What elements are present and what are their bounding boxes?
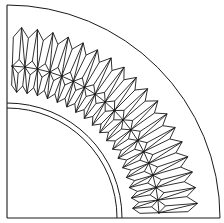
diamond-edge xyxy=(105,92,106,102)
inner-facet-edge xyxy=(123,168,132,170)
radial-boundary-edge xyxy=(23,67,25,86)
inner-facet-edge xyxy=(75,104,76,113)
outer-crystal-edge xyxy=(124,89,148,111)
outer-facet-edge xyxy=(13,28,21,38)
radial-boundary-edge xyxy=(156,182,184,188)
radial-boundary-edge xyxy=(140,213,159,214)
outer-facet-edge xyxy=(68,37,72,49)
outer-crystal-edge xyxy=(95,58,111,94)
radial-boundary-edge xyxy=(138,126,163,141)
mid-boundary-edge xyxy=(25,67,38,69)
outer-crystal-edge xyxy=(105,67,124,102)
inner-facet-edge xyxy=(113,149,122,150)
diamond-edge xyxy=(156,188,164,193)
outer-crystal-edge xyxy=(19,28,21,60)
inner-crystal-edge xyxy=(129,175,153,187)
diamond-edge xyxy=(12,59,19,66)
radial-boundary-edge xyxy=(105,80,124,102)
radial-boundary-edge xyxy=(109,120,124,132)
inner-facet-edge xyxy=(100,132,109,133)
outer-facet-edge xyxy=(181,167,193,172)
diamond-edge xyxy=(94,85,95,94)
inner-facet-edge xyxy=(55,94,57,103)
outer-crystal-edge xyxy=(147,128,175,143)
mid-boundary-edge xyxy=(85,87,96,94)
outer-crystal-edge xyxy=(153,142,182,155)
diamond-edge xyxy=(150,195,158,200)
inner-facet-edge xyxy=(131,198,139,202)
radial-boundary-edge xyxy=(144,139,170,152)
diagram-canvas xyxy=(0,0,224,223)
diamond-edge xyxy=(131,130,140,131)
outer-facet-edge xyxy=(37,29,43,40)
mid-boundary-edge xyxy=(95,94,105,102)
diamond-edge xyxy=(158,200,166,206)
outer-facet-edge xyxy=(83,43,86,55)
inner-crystal-edge xyxy=(67,81,74,107)
diamond-edge xyxy=(122,129,131,130)
outer-crystal-edge xyxy=(22,28,25,68)
diamond-edge xyxy=(32,61,37,69)
outer-crystal-edge xyxy=(133,101,158,121)
inner-crystal-edge xyxy=(126,171,144,177)
diamond-edge xyxy=(95,94,96,103)
inner-facet-edge xyxy=(44,90,47,98)
outer-facet-edge xyxy=(170,139,182,142)
outer-facet-edge xyxy=(187,197,198,204)
inner-facet-edge xyxy=(34,88,38,96)
crystal-ring-diagram xyxy=(0,0,224,223)
crystal-ring xyxy=(11,28,197,214)
outer-facet-edge xyxy=(184,182,195,188)
outer-facet-edge xyxy=(176,153,188,157)
outer-crystal-edge xyxy=(82,50,97,78)
inner-crystal-edge xyxy=(126,163,148,177)
radial-boundary-edge xyxy=(101,111,114,124)
radial-boundary-edge xyxy=(73,55,86,81)
diamond-edge xyxy=(123,120,133,121)
radial-boundary-edge xyxy=(12,66,13,85)
outer-facet-edge xyxy=(111,58,112,71)
radial-boundary-edge xyxy=(93,102,105,117)
inner-facet-edge xyxy=(126,178,134,181)
mid-boundary-edge xyxy=(158,200,159,213)
inner-crystal-edge xyxy=(17,73,18,92)
inner-crystal-edge xyxy=(57,76,62,102)
radial-boundary-edge xyxy=(37,41,43,69)
outer-crystal-edge xyxy=(94,58,111,85)
diamond-edge xyxy=(25,61,32,67)
radial-boundary-edge xyxy=(12,37,13,66)
outer-crystal-edge xyxy=(140,114,167,131)
mid-boundary-edge xyxy=(105,102,114,111)
inner-facet-edge xyxy=(65,98,67,107)
outer-crystal-edge xyxy=(115,77,137,101)
radial-boundary-edge xyxy=(123,101,145,120)
diamond-edge xyxy=(105,111,114,112)
outer-crystal-edge xyxy=(114,77,136,110)
diamond-edge xyxy=(152,207,159,213)
mid-boundary-edge xyxy=(123,120,131,130)
mid-boundary-edge xyxy=(156,188,158,201)
radial-boundary-edge xyxy=(25,38,28,67)
radial-boundary-edge xyxy=(114,90,135,111)
inner-facet-edge xyxy=(129,188,137,192)
radial-boundary-edge xyxy=(131,113,155,130)
inner-facet-edge xyxy=(17,86,23,92)
diamond-edge xyxy=(105,101,114,102)
outer-facet-edge xyxy=(154,113,167,114)
mid-boundary-edge xyxy=(12,66,25,67)
mid-boundary-edge xyxy=(114,111,123,120)
outer-facet-edge xyxy=(97,50,99,63)
mid-boundary-edge xyxy=(131,130,138,141)
outer-facet-edge xyxy=(163,126,176,128)
outer-crystal-edge xyxy=(62,37,69,76)
outer-facet-edge xyxy=(53,33,58,45)
outer-crystal-edge xyxy=(105,67,125,92)
inner-arc-inner xyxy=(7,108,117,218)
inner-facet-edge xyxy=(133,208,140,213)
inner-facet-edge xyxy=(118,158,127,160)
